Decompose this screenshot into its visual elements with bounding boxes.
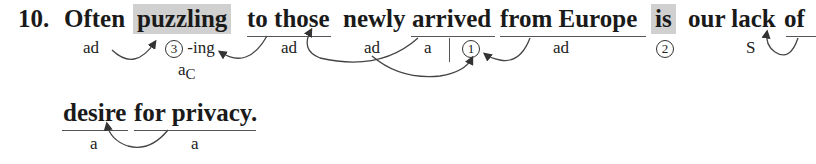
arrow-arrived-to-those [307,30,418,62]
modification-arrows [0,0,816,164]
arrow-newly-to-arrived [372,56,472,77]
arrow-to-those-to-puzzling [220,36,267,58]
arrow-from-europe-to-arrived [485,38,530,61]
arrow-of-to-lack [767,32,798,55]
arrow-often-to-puzzling [112,42,155,59]
arrow-for-privacy-to-desire [107,124,168,147]
